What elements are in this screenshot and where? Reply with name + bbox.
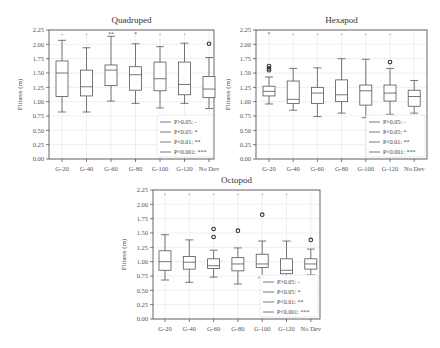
chart-title: Octopod bbox=[221, 175, 252, 185]
legend-entry: P<0.01: ** bbox=[277, 299, 303, 305]
octopod-plot: Octopod0.000.250.500.751.001.251.501.752… bbox=[0, 0, 440, 348]
y-axis-label: Fitness (m) bbox=[120, 238, 128, 270]
y-tick-label: 0.75 bbox=[137, 272, 148, 279]
y-tick-label: 2.00 bbox=[137, 201, 148, 208]
x-tick-label: No Dev bbox=[301, 325, 322, 332]
x-tick-label: G-20 bbox=[158, 325, 171, 332]
y-tick-label: 0.00 bbox=[137, 315, 148, 322]
x-axis: G-20G-40G-60G-80G-100G-120No Dev bbox=[158, 319, 321, 332]
significance-mark: - bbox=[188, 191, 190, 197]
box-g-120 bbox=[281, 241, 293, 278]
y-tick-label: 1.00 bbox=[137, 258, 148, 265]
y-tick-label: 0.50 bbox=[137, 287, 148, 294]
y-tick-label: 1.75 bbox=[137, 215, 148, 222]
significance-mark: - bbox=[261, 191, 263, 197]
y-tick-label: 2.25 bbox=[137, 186, 148, 193]
x-tick-label: G-120 bbox=[278, 325, 295, 332]
x-tick-label: G-80 bbox=[231, 325, 244, 332]
y-tick-label: 1.25 bbox=[137, 244, 148, 251]
legend-entry: P<0.001: *** bbox=[277, 309, 309, 315]
legend-entry: P>0.05: - bbox=[277, 279, 299, 285]
octopod-chart: Octopod0.000.250.500.751.001.251.501.752… bbox=[0, 0, 440, 348]
x-tick-label: G-40 bbox=[183, 325, 196, 332]
y-tick-label: 0.25 bbox=[137, 301, 148, 308]
significance-mark: - bbox=[237, 191, 239, 197]
x-tick-label: G-100 bbox=[254, 325, 271, 332]
significance-mark: - bbox=[164, 191, 166, 197]
y-axis: 0.000.250.500.751.001.251.501.752.002.25… bbox=[120, 186, 153, 322]
legend: P>0.05: -P<0.05: *P<0.01: **P<0.001: *** bbox=[260, 275, 318, 317]
significance-mark: - bbox=[213, 191, 215, 197]
x-tick-label: G-60 bbox=[207, 325, 220, 332]
box-g-60 bbox=[208, 227, 220, 277]
legend-entry: P<0.05: * bbox=[277, 289, 300, 295]
box-g-20 bbox=[159, 235, 171, 280]
significance-mark: - bbox=[286, 191, 288, 197]
y-tick-label: 1.50 bbox=[137, 229, 148, 236]
